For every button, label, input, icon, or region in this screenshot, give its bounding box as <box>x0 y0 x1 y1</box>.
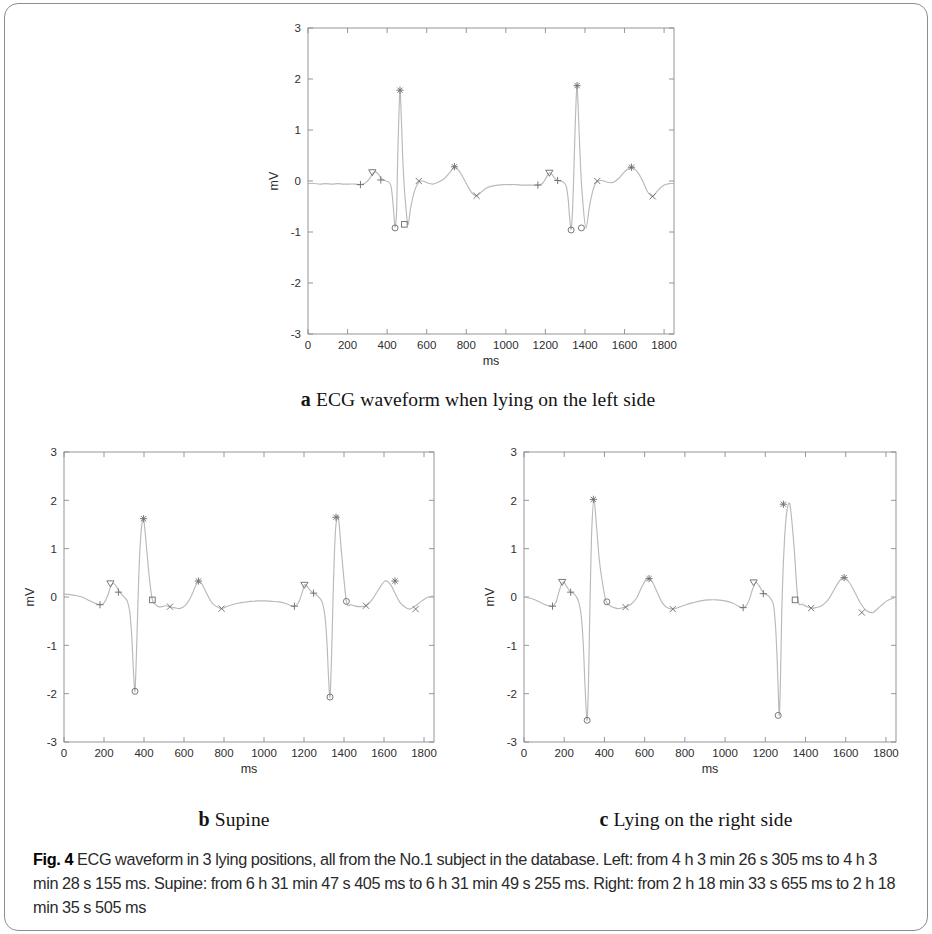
x-tick-label: 200 <box>338 339 357 351</box>
figure-caption-text: ECG waveform in 3 lying positions, all f… <box>33 850 895 916</box>
x-tick-label: 1800 <box>651 339 677 351</box>
marker-t-offset <box>650 193 656 199</box>
y-tick-label: 1 <box>51 543 57 555</box>
ecg-plot-left-side: 020040060080010001200140016001800-3-2-10… <box>268 14 688 379</box>
subcaption-b-letter: b <box>198 808 209 830</box>
fiducial-markers <box>96 514 418 700</box>
marker-p-onset <box>291 603 298 610</box>
marker-t-peak <box>391 577 398 584</box>
figure-4: 020040060080010001200140016001800-3-2-10… <box>0 0 932 934</box>
y-tick-label: 3 <box>295 22 301 34</box>
x-tick-label: 1000 <box>493 339 519 351</box>
y-tick-label: 1 <box>295 124 301 136</box>
marker-p-peak <box>369 170 376 176</box>
y-tick-label: -3 <box>47 736 57 748</box>
marker-t-offset <box>859 609 865 615</box>
marker-r <box>140 515 147 522</box>
y-axis-label: mV <box>483 587 497 606</box>
subcaption-a-letter: a <box>301 388 311 410</box>
x-tick-label: 600 <box>635 747 654 759</box>
x-tick-label: 600 <box>417 339 436 351</box>
x-tick-label: 1400 <box>572 339 598 351</box>
x-tick-label: 1600 <box>371 747 397 759</box>
y-tick-label: -2 <box>291 277 301 289</box>
marker-t-peak <box>195 577 202 584</box>
x-tick-label: 0 <box>521 747 527 759</box>
subcaption-c-letter: c <box>600 808 609 830</box>
y-tick-label: 0 <box>295 175 301 187</box>
x-axis-label: ms <box>702 762 719 776</box>
x-tick-label: 1000 <box>712 747 738 759</box>
marker-r <box>396 87 403 94</box>
subcaption-c: cLying on the right side <box>484 808 908 831</box>
x-tick-label: 0 <box>305 339 311 351</box>
y-tick-label: -1 <box>47 640 57 652</box>
marker-s <box>792 597 798 603</box>
marker-r <box>590 496 597 503</box>
x-tick-label: 1800 <box>873 747 899 759</box>
x-tick-label: 800 <box>214 747 233 759</box>
figure-label: Fig. 4 <box>33 850 73 868</box>
y-tick-label: -1 <box>291 226 301 238</box>
x-tick-label: 1400 <box>331 747 357 759</box>
marker-t-peak <box>628 164 635 171</box>
marker-p-onset <box>740 604 747 611</box>
x-tick-label: 1200 <box>753 747 779 759</box>
figure-caption: Fig. 4 ECG waveform in 3 lying positions… <box>33 848 899 920</box>
marker-p-onset <box>357 181 364 188</box>
marker-t-peak <box>451 163 458 170</box>
x-tick-label: 800 <box>675 747 694 759</box>
plot-frame <box>524 452 896 742</box>
marker-s <box>402 222 408 228</box>
x-tick-label: 1200 <box>291 747 317 759</box>
marker-p-offset <box>760 590 767 597</box>
y-axis-label: mV <box>23 587 37 606</box>
x-tick-label: 1400 <box>793 747 819 759</box>
x-tick-label: 1000 <box>251 747 277 759</box>
ecg-plot-supine: 020040060080010001200140016001800-3-2-10… <box>24 438 444 786</box>
plot-frame <box>64 452 434 742</box>
x-tick-label: 1800 <box>411 747 437 759</box>
ecg-waveform-line <box>524 499 896 720</box>
x-tick-label: 400 <box>595 747 614 759</box>
y-tick-label: -2 <box>47 688 57 700</box>
marker-t-offset <box>413 606 419 612</box>
x-tick-label: 1600 <box>833 747 859 759</box>
y-tick-label: 2 <box>295 73 301 85</box>
subcaption-a: aECG waveform when lying on the left sid… <box>268 388 688 411</box>
x-tick-label: 1200 <box>533 339 559 351</box>
x-tick-label: 1600 <box>612 339 638 351</box>
x-tick-label: 400 <box>134 747 153 759</box>
subcaption-b: bSupine <box>24 808 444 831</box>
y-tick-label: 0 <box>511 591 517 603</box>
subcaption-c-text: Lying on the right side <box>614 809 793 830</box>
x-tick-label: 400 <box>378 339 397 351</box>
subcaption-a-text: ECG waveform when lying on the left side <box>316 389 655 410</box>
x-axis-label: ms <box>483 354 500 368</box>
y-tick-label: -3 <box>507 736 517 748</box>
x-tick-label: 0 <box>61 747 67 759</box>
ecg-plot-right-side: 020040060080010001200140016001800-3-2-10… <box>484 438 908 786</box>
y-tick-label: 1 <box>511 543 517 555</box>
marker-t-offset <box>473 193 479 199</box>
marker-p-offset <box>115 589 122 596</box>
x-tick-label: 200 <box>94 747 113 759</box>
marker-r <box>332 514 339 521</box>
x-tick-label: 200 <box>555 747 574 759</box>
chart-svg-c: 020040060080010001200140016001800-3-2-10… <box>484 438 908 786</box>
marker-r <box>573 82 580 89</box>
marker-t-peak <box>841 574 848 581</box>
x-tick-label: 800 <box>457 339 476 351</box>
y-tick-label: -1 <box>507 640 517 652</box>
marker-t-onset <box>363 603 369 609</box>
fiducial-markers <box>357 82 656 233</box>
marker-p-onset <box>96 601 103 608</box>
subcaption-b-text: Supine <box>215 809 270 830</box>
y-tick-label: 2 <box>51 495 57 507</box>
y-axis-label: mV <box>267 171 281 190</box>
marker-r <box>780 501 787 508</box>
marker-p-onset <box>534 181 541 188</box>
chart-svg-b: 020040060080010001200140016001800-3-2-10… <box>24 438 444 786</box>
chart-svg-a: 020040060080010001200140016001800-3-2-10… <box>268 14 688 379</box>
ecg-waveform-line <box>308 86 674 230</box>
